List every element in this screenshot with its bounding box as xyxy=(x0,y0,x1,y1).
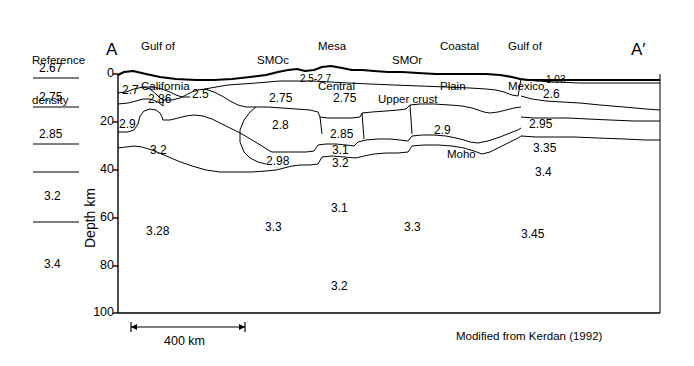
boundary-2-75-2-8 xyxy=(256,104,521,118)
axis-lines xyxy=(113,74,660,313)
boundary-2-8-base xyxy=(272,128,521,152)
boundary-base-2-95 xyxy=(521,117,660,121)
cross-section-drawing xyxy=(0,0,694,366)
legend-rules xyxy=(33,78,79,222)
scale-bar xyxy=(131,322,245,332)
boundary-base-2-6 xyxy=(521,96,660,110)
boundary-upper-crust-top xyxy=(205,79,521,96)
scale-bar-arrow-right xyxy=(239,324,245,330)
moho-boundary xyxy=(118,136,521,172)
boundary-3-35-3-4 xyxy=(521,136,660,140)
boundary-upper-middle-crust-left xyxy=(118,99,163,106)
topography-surface xyxy=(118,66,660,80)
boundary-2-5-wedge xyxy=(205,89,256,107)
scale-bar-arrow-left xyxy=(131,324,137,330)
cross-section-figure: Gulf of California SMOc Mesa Central SMO… xyxy=(0,0,694,366)
boundary-block-2-9 xyxy=(118,109,272,152)
